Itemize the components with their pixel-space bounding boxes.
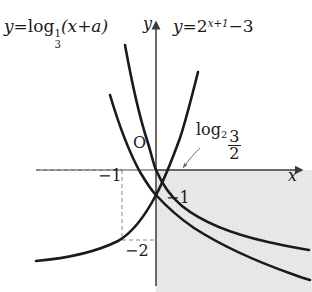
x-intercept-callout-label: log232 [196,122,241,162]
callout-fraction-denominator: 2 [228,145,240,162]
eq-right-exponent: x+1 [208,18,229,29]
eq-right-lhs: y [173,16,183,36]
eq-left-log: log [28,16,55,36]
callout-log: log [196,120,221,139]
tick-label-neg1-intersection: −1 [166,190,190,206]
callout-log-base: 2 [221,129,227,140]
y-axis-label: y [143,16,152,32]
eq-left-lhs: y [4,16,14,36]
tick-label-neg1-left: −1 [98,168,122,184]
callout-fraction-numerator: 3 [228,129,240,145]
math-figure: y=log13(x+a) y=2x+1−3 y x O log232 −1 −1… [0,0,312,292]
equation-label-exponential-curve: y=2x+1−3 [173,18,254,35]
eq-left-equals: = [14,16,28,36]
tick-label-neg2: −2 [125,243,149,259]
eq-right-tail: −3 [228,16,253,36]
eq-right-equals: = [183,16,197,36]
origin-label: O [133,135,146,151]
callout-fraction: 32 [228,129,240,163]
x-axis-label: x [288,168,297,184]
eq-left-base-den: 3 [54,40,60,50]
equation-label-log-curve: y=log13(x+a) [4,18,108,50]
eq-left-arg: (x+a) [61,16,108,36]
eq-right-base: 2 [197,16,208,36]
